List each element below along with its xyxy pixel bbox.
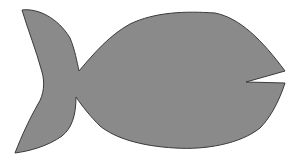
- fish-canvas: [0, 0, 300, 167]
- fish-silhouette: [15, 10, 285, 153]
- fish-icon: [0, 0, 300, 167]
